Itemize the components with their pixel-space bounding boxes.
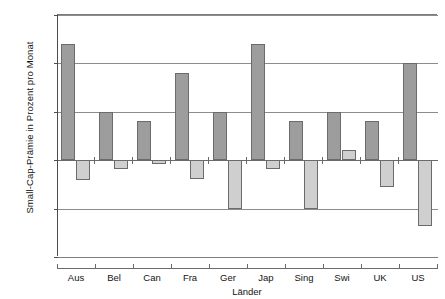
plot-area [57,14,437,256]
gridline [58,257,438,258]
zero-line-tick [398,157,399,164]
y-tick-mark [54,160,58,161]
zero-line-tick [322,157,323,164]
bar-us-positive [403,63,417,160]
y-axis-title: Small-Cap-Prämie in Prozent pro Monat [24,3,35,253]
zero-line-tick [246,157,247,164]
bar-aus-negative [76,160,90,179]
bar-swi-positive [327,112,341,160]
bar-uk-negative [380,160,394,187]
x-tick-mark [171,264,172,269]
zero-line-tick [94,157,95,164]
bar-sing-positive [289,121,303,160]
y-tick-mark [54,112,58,113]
bar-can-negative [152,160,166,164]
bar-aus-positive [61,44,75,160]
x-category-label-us: US [393,272,443,283]
x-tick-mark [133,264,134,269]
gridline [58,209,438,210]
zero-line-tick [208,157,209,164]
bar-ger-positive [213,112,227,160]
y-tick-mark [54,257,58,258]
x-tick-mark [323,264,324,269]
x-tick-mark [399,264,400,269]
x-tick-mark [57,264,58,269]
gridline [58,63,438,64]
y-tick-mark [54,15,58,16]
x-tick-mark [285,264,286,269]
bar-bel-positive [99,112,113,160]
x-tick-mark [95,264,96,269]
x-tick-mark [247,264,248,269]
zero-line-tick [360,157,361,164]
y-tick-mark [54,209,58,210]
x-tick-mark [437,264,438,269]
bar-fra-positive [175,73,189,160]
bar-ger-negative [228,160,242,208]
bar-uk-positive [365,121,379,160]
zero-line-tick [132,157,133,164]
zero-line-tick [170,157,171,164]
x-tick-mark [361,264,362,269]
gridline [58,15,438,16]
bar-fra-negative [190,160,204,178]
zero-line-tick [284,157,285,164]
x-axis-title: Länder [57,286,437,297]
x-tick-mark [209,264,210,269]
bar-chart: Small-Cap-Prämie in Prozent pro Monat Lä… [0,0,445,299]
bar-bel-negative [114,160,128,169]
bar-can-positive [137,121,151,160]
bar-us-negative [418,160,432,226]
bar-jap-negative [266,160,280,169]
gridline [58,112,438,113]
y-tick-mark [54,63,58,64]
bar-jap-positive [251,44,265,160]
bar-swi-negative [342,150,356,161]
bar-sing-negative [304,160,318,208]
